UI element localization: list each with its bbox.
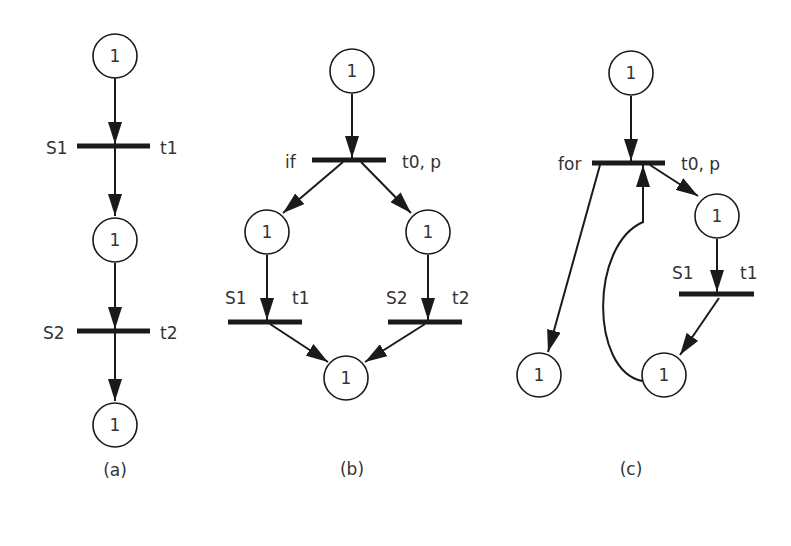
transition-label-left: S1 xyxy=(225,288,247,308)
transition-label-left: S1 xyxy=(46,138,68,158)
place-token: 1 xyxy=(110,415,121,435)
arc-c-ploop-t0 xyxy=(603,165,643,381)
place-token: 1 xyxy=(626,63,637,83)
arc-b-t1-pbottom xyxy=(270,324,328,362)
petri-net-figure: S1 t1 S2 t2 1 1 1 (a) if t0, p S1 t1 S2 … xyxy=(0,0,791,546)
transition-label-left: S2 xyxy=(386,288,408,308)
place-token: 1 xyxy=(534,365,545,385)
transition-label-left: if xyxy=(285,152,297,172)
panel-caption: (a) xyxy=(103,460,127,480)
panel-a: S1 t1 S2 t2 1 1 1 (a) xyxy=(43,34,177,480)
arc-c-t0-pexit xyxy=(548,165,600,352)
transition-label-right: t1 xyxy=(292,288,309,308)
place-token: 1 xyxy=(341,368,352,388)
arc-c-t1-ploop xyxy=(680,298,719,355)
transition-label-right: t1 xyxy=(160,138,177,158)
transition-label-right: t2 xyxy=(452,288,469,308)
place-token: 1 xyxy=(712,206,723,226)
place-token: 1 xyxy=(659,365,670,385)
transition-label-right: t2 xyxy=(160,323,177,343)
place-token: 1 xyxy=(262,222,273,242)
panel-caption: (c) xyxy=(620,459,643,479)
place-token: 1 xyxy=(110,230,121,250)
panel-b: if t0, p S1 t1 S2 t2 1 1 1 1 (b) xyxy=(225,49,469,479)
transition-label-left: for xyxy=(558,154,581,174)
transition-label-left: S2 xyxy=(43,323,65,343)
transition-label-right: t0, p xyxy=(402,152,441,172)
transition-label-left: S1 xyxy=(672,263,694,283)
transition-label-right: t0, p xyxy=(681,154,720,174)
panel-caption: (b) xyxy=(340,459,364,479)
transition-label-right: t1 xyxy=(740,263,757,283)
place-token: 1 xyxy=(110,46,121,66)
arc-b-t2-pbottom xyxy=(365,324,425,362)
panel-c: for t0, p S1 t1 1 1 1 1 (c) xyxy=(517,51,757,479)
place-token: 1 xyxy=(423,222,434,242)
place-token: 1 xyxy=(347,61,358,81)
